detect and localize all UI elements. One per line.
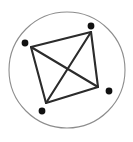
marked-point-bottom [39,108,46,115]
marked-point-top [88,23,95,30]
diagram-container [0,0,133,142]
geometry-figure [0,0,133,142]
marked-point-right [106,88,113,95]
marked-point-left [22,40,29,47]
